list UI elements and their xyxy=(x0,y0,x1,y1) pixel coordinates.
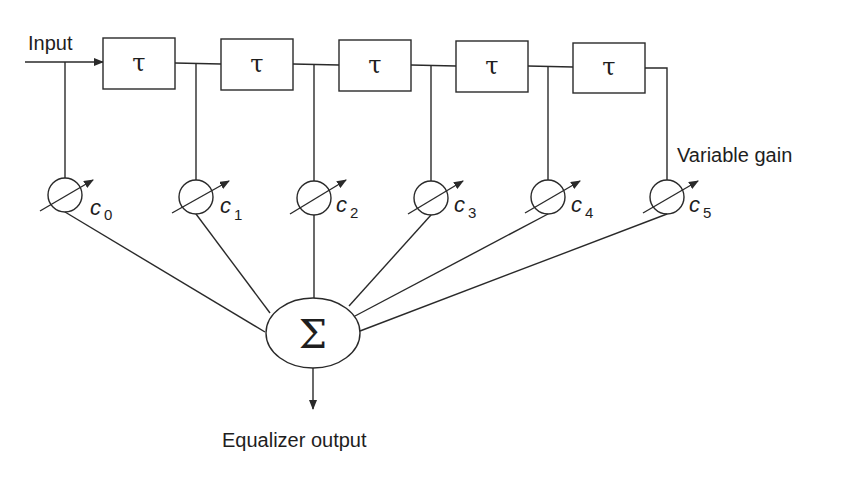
gain-element-0: c 0 xyxy=(40,178,112,223)
svg-text:τ: τ xyxy=(132,49,145,77)
gain-element-5: c 5 xyxy=(643,180,711,221)
delay-connector-last xyxy=(645,68,667,180)
output-label: Equalizer output xyxy=(222,429,367,451)
svg-text:2: 2 xyxy=(350,204,358,221)
svg-text:4: 4 xyxy=(585,204,593,221)
gain-element-4: c 4 xyxy=(525,180,593,221)
delay-box-3: τ xyxy=(339,40,411,91)
svg-text:c: c xyxy=(336,192,347,217)
sum-input-3 xyxy=(349,215,431,306)
tapped-delay-line-equalizer-diagram: Input τ τ τ τ τ Variable gain c 0 xyxy=(0,0,845,480)
sum-input-0 xyxy=(65,212,265,332)
svg-text:τ: τ xyxy=(485,52,498,80)
svg-text:c: c xyxy=(90,195,101,220)
svg-text:0: 0 xyxy=(104,206,112,223)
svg-text:c: c xyxy=(220,193,231,218)
sigma-icon: Σ xyxy=(299,311,327,357)
gain-element-1: c 1 xyxy=(172,180,242,223)
delay-box-2: τ xyxy=(221,39,293,90)
svg-text:τ: τ xyxy=(602,53,615,81)
delay-box-4: τ xyxy=(456,41,528,92)
svg-text:3: 3 xyxy=(468,204,476,221)
sum-input-1 xyxy=(196,214,270,313)
delay-connector xyxy=(293,64,339,65)
delay-connector xyxy=(528,66,573,67)
svg-text:τ: τ xyxy=(250,50,263,78)
svg-text:c: c xyxy=(454,192,465,217)
delay-connector xyxy=(411,65,456,66)
delay-box-5: τ xyxy=(573,43,645,93)
sum-input-4 xyxy=(355,214,548,316)
gain-element-2: c 2 xyxy=(290,180,358,221)
variable-gain-label: Variable gain xyxy=(677,144,792,166)
gain-element-3: c 3 xyxy=(408,181,476,221)
svg-text:1: 1 xyxy=(234,206,242,223)
delay-box-1: τ xyxy=(103,38,175,89)
input-label: Input xyxy=(28,32,73,54)
delay-connector xyxy=(175,63,221,64)
svg-text:c: c xyxy=(689,192,700,217)
summation-node: Σ xyxy=(266,298,360,368)
svg-text:τ: τ xyxy=(368,51,381,79)
svg-text:5: 5 xyxy=(703,204,711,221)
svg-text:c: c xyxy=(571,192,582,217)
